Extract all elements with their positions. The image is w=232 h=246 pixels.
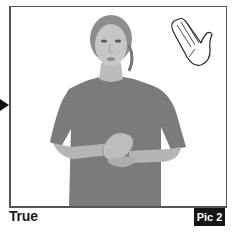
sign-caption: True [9,208,38,224]
sign-photo-frame [9,6,227,208]
pointer-arrow-icon [0,99,9,111]
picture-number-badge: Pic 2 [194,208,225,226]
signer-photo [11,7,226,206]
open-hand-icon [172,19,212,66]
